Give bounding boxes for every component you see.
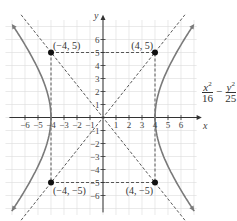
- x-tick-label: 5: [166, 120, 171, 130]
- x-tick-label: −4: [46, 120, 56, 130]
- y-tick-label: 6: [95, 35, 100, 45]
- y-tick-label: −2: [90, 139, 100, 149]
- point-label: (−4, 5): [53, 40, 80, 52]
- x-tick-label: 2: [127, 120, 132, 130]
- y-tick-label: 5: [95, 48, 100, 58]
- y-tick-label: −4: [90, 165, 100, 175]
- y-tick-label: −5: [90, 178, 100, 188]
- x-axis-label: x: [202, 120, 208, 131]
- x-tick-label: −6: [20, 120, 30, 130]
- fraction-y: y2 25: [224, 79, 237, 103]
- point-label: (4, 5): [131, 40, 153, 52]
- equation-label: x2 16 − y2 25 = 1: [201, 79, 237, 103]
- y-tick-label: −3: [90, 152, 100, 162]
- minus-sign: −: [216, 85, 222, 97]
- x-tick-label: 6: [179, 120, 184, 130]
- point-label: (−4, −5): [53, 185, 86, 197]
- y-tick-label: 2: [95, 87, 100, 97]
- x-tick-label: 4: [153, 120, 158, 130]
- x-tick-label: −3: [59, 120, 69, 130]
- fraction-x: x2 16: [201, 79, 214, 103]
- x-tick-label: −2: [72, 120, 82, 130]
- point-label: (4, −5): [126, 185, 153, 197]
- y-tick-label: −6: [90, 191, 100, 201]
- y-tick-label: 4: [95, 61, 100, 71]
- y-tick-label: 3: [95, 74, 100, 84]
- x-tick-label: 3: [140, 120, 145, 130]
- x-tick-label: 1: [114, 120, 119, 130]
- y-axis-label: y: [93, 10, 99, 21]
- y-tick-label: 1: [95, 100, 100, 110]
- x-tick-label: −5: [33, 120, 43, 130]
- y-tick-label: −1: [90, 126, 100, 136]
- hyperbola-graph: −6−5−4−3−2−1123456654321−1−2−3−4−5−6 (−4…: [0, 0, 237, 221]
